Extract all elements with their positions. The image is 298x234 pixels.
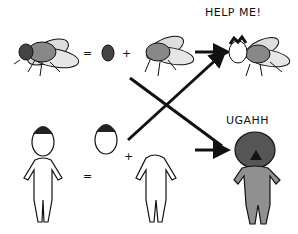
fly-headed-man — [234, 132, 280, 224]
equals-sign-top: = — [83, 47, 93, 60]
headless-human-body — [136, 155, 176, 222]
whole-fly — [14, 34, 80, 76]
ugahh-caption: UGAHH — [226, 114, 269, 127]
plus-sign-bottom: + — [124, 150, 134, 163]
help-me-caption: HELP ME! — [205, 6, 261, 19]
arrow-human-head-to-fly — [128, 56, 220, 140]
equals-sign-bottom: = — [83, 170, 93, 183]
human-headed-fly — [229, 33, 291, 76]
fly-head — [102, 45, 114, 61]
headless-fly-body — [143, 31, 195, 76]
arrow-fly-body-cross — [130, 78, 222, 146]
plus-sign-top: + — [122, 47, 132, 60]
whole-human — [24, 126, 62, 222]
fly-human-swap-illustration: = + HELP ME! = + UGA — [0, 0, 298, 234]
human-head — [95, 124, 117, 154]
